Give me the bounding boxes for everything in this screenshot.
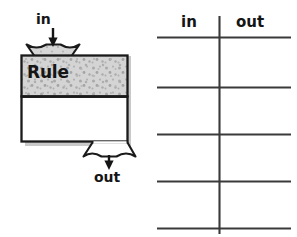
table-header-in: in [181, 15, 197, 30]
table-cell-out[interactable] [221, 183, 291, 228]
machine-output-chute [84, 143, 136, 157]
table-header-out: out [236, 15, 264, 30]
table-cell-in[interactable] [157, 89, 219, 134]
machine-input-label: in [36, 12, 51, 26]
table-row [157, 183, 291, 228]
table-cell-out[interactable] [221, 136, 291, 181]
table-row [157, 136, 291, 181]
table-cell-in[interactable] [157, 39, 219, 87]
machine-title-label: Rule [27, 64, 69, 81]
table-cell-out[interactable] [221, 39, 291, 87]
worksheet-canvas: in Rule out in out [0, 0, 297, 237]
table-row [157, 39, 291, 87]
machine-output-label: out [94, 170, 120, 184]
table-cell-in[interactable] [157, 136, 219, 181]
table-cell-out[interactable] [221, 89, 291, 134]
table-cell-in[interactable] [157, 183, 219, 228]
table-row [157, 89, 291, 134]
